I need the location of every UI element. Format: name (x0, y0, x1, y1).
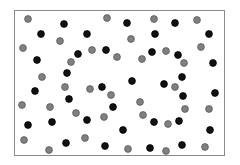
gray-dot (182, 106, 189, 113)
black-dot (180, 93, 187, 100)
black-dot (84, 117, 91, 124)
gray-dot (57, 38, 64, 45)
black-dot (64, 70, 71, 77)
gray-dot (128, 36, 135, 43)
gray-dot (202, 144, 209, 151)
gray-dot (62, 84, 69, 91)
gray-dot (165, 121, 172, 128)
gray-dot (172, 84, 179, 91)
black-dot (63, 140, 70, 147)
gray-dot (46, 147, 53, 154)
gray-dot (73, 110, 80, 117)
gray-dot (104, 15, 111, 22)
black-dot (212, 90, 219, 97)
gray-dot (47, 104, 54, 111)
black-dot (75, 51, 82, 58)
gray-dot (194, 17, 201, 24)
black-dot (179, 142, 186, 149)
black-dot (149, 49, 156, 56)
gray-dot (163, 48, 170, 55)
black-dot (172, 20, 179, 27)
gray-dot (198, 44, 205, 51)
black-dot (102, 143, 109, 150)
dot-field (0, 0, 240, 165)
gray-dot (114, 54, 121, 61)
black-dot (25, 122, 32, 129)
black-dot (210, 60, 217, 67)
gray-dot (163, 148, 170, 155)
gray-dot (87, 86, 94, 93)
black-dot (147, 145, 154, 152)
gray-dot (125, 146, 132, 153)
gray-dot (108, 92, 115, 99)
black-dot (38, 31, 45, 38)
black-dot (176, 118, 183, 125)
black-dot (103, 47, 110, 54)
gray-dot (101, 114, 108, 121)
black-dot (161, 81, 168, 88)
black-dot (61, 21, 68, 28)
black-dot (207, 127, 214, 134)
gray-dot (21, 137, 28, 144)
gray-dot (181, 60, 188, 67)
black-dot (179, 74, 186, 81)
gray-dot (68, 59, 75, 66)
black-dot (99, 84, 106, 91)
gray-dot (137, 99, 144, 106)
black-dot (66, 96, 73, 103)
gray-dot (151, 16, 158, 23)
gray-dot (89, 47, 96, 54)
black-dot (49, 119, 56, 126)
gray-dot (20, 45, 27, 52)
gray-dot (39, 74, 46, 81)
black-dot (32, 88, 39, 95)
black-dot (151, 119, 158, 126)
black-dot (110, 104, 117, 111)
gray-dot (206, 106, 213, 113)
black-dot (129, 78, 136, 85)
gray-dot (139, 56, 146, 63)
black-dot (34, 57, 41, 64)
gray-dot (19, 102, 26, 109)
black-dot (124, 20, 131, 27)
black-dot (120, 127, 127, 134)
gray-dot (25, 16, 32, 23)
gray-dot (140, 112, 147, 119)
black-dot (206, 31, 213, 38)
black-dot (84, 31, 91, 38)
black-dot (175, 52, 182, 59)
gray-dot (82, 135, 89, 142)
black-dot (152, 31, 159, 38)
